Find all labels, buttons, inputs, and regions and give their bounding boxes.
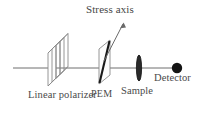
pem-element	[99, 40, 110, 84]
diagram-canvas	[0, 0, 207, 126]
label-sample: Sample	[121, 85, 153, 96]
label-detector: Detector	[154, 72, 191, 83]
label-pem: PEM	[91, 89, 112, 100]
sample-element	[136, 55, 141, 81]
label-stress-axis: Stress axis	[86, 4, 134, 16]
label-linear-polarizer: Linear polarizer	[28, 89, 86, 100]
optical-setup-diagram: Stress axis Linear polarizer PEM Sample …	[0, 0, 207, 126]
linear-polarizer-element	[48, 34, 68, 87]
